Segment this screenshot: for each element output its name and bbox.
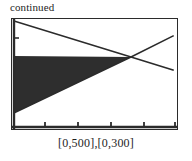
- plot-area: [12, 19, 177, 129]
- figure-container: continued [0,500],[0,300]: [0, 0, 192, 161]
- calculator-screen-frame: [11, 18, 178, 130]
- range-caption: [0,500],[0,300]: [0, 136, 192, 151]
- continued-label: continued: [10, 1, 54, 14]
